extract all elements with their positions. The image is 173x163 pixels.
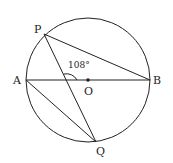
angle-label: 108° xyxy=(68,60,90,70)
label-a: A xyxy=(12,74,22,87)
circle-diagram: P A B O Q 108° xyxy=(0,0,173,163)
chord-pb xyxy=(44,34,150,80)
center-dot xyxy=(86,78,90,82)
label-p: P xyxy=(34,23,42,36)
label-o: O xyxy=(84,85,93,98)
label-b: B xyxy=(153,74,161,87)
label-q: Q xyxy=(96,145,105,158)
